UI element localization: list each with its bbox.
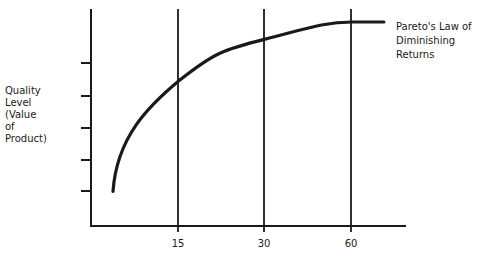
x-tick-label-30: 30 [258,238,271,249]
y-label-line: Quality [5,85,41,96]
reference-lines [178,9,351,232]
y-label-line: (Value [5,109,36,120]
x-tick-label-15: 15 [172,238,185,249]
y-ticks [81,63,91,191]
annotation-line: Diminishing [396,35,455,46]
x-tick-label-60: 60 [345,238,358,249]
y-axis-label: Quality Level (Value of Product) [5,85,47,144]
x-tick-labels: 15 30 60 [172,238,358,249]
curve-pareto [113,22,384,191]
y-label-line: Level [5,97,31,108]
y-label-line: of [5,121,15,132]
axes [90,9,406,226]
y-label-line: Product) [5,133,47,144]
annotation-line: Returns [396,49,434,60]
curve-annotation: Pareto's Law of Diminishing Returns [396,21,472,60]
chart: Quality Level (Value of Product) 15 30 6… [0,0,485,260]
annotation-line: Pareto's Law of [396,21,472,32]
